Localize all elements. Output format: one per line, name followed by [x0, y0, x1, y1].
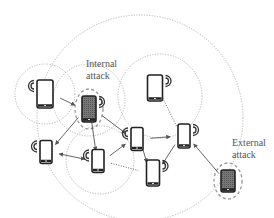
- link-F-H: [143, 149, 147, 162]
- range-circles: [15, 15, 243, 218]
- phone-C: [148, 75, 172, 101]
- phone-A: [29, 80, 53, 108]
- link-E-H: [111, 163, 138, 170]
- link-A-B: [60, 98, 75, 105]
- diagram-canvas: [0, 0, 274, 218]
- phone-icon: [148, 75, 163, 101]
- phone-icon: [147, 160, 160, 186]
- phone-F: [123, 128, 144, 151]
- internal-attack-line2: attack: [86, 70, 117, 82]
- phone-icon: [37, 80, 53, 108]
- link-I-G: [194, 144, 219, 174]
- link-D-E: [59, 154, 84, 159]
- phone-B-internal-attacker: [82, 96, 105, 122]
- link-C-G: [163, 98, 177, 126]
- signal-waves-icon: [84, 150, 90, 161]
- external-attack-label: External attack: [232, 137, 266, 161]
- network-attack-diagram: Internal attack External attack: [0, 0, 274, 218]
- phone-I-external-attacker: [221, 170, 235, 192]
- signal-waves-icon: [166, 76, 172, 87]
- link-B-F: [102, 115, 126, 133]
- signal-waves-icon: [123, 128, 129, 139]
- internal-attack-label: Internal attack: [86, 58, 117, 82]
- signal-waves-icon: [29, 81, 34, 92]
- phone-H: [147, 160, 169, 186]
- nodes: [29, 75, 236, 192]
- phone-D: [32, 141, 52, 164]
- link-B-D: [56, 117, 79, 144]
- signal-waves-icon: [99, 97, 105, 108]
- network-outer-circle: [37, 15, 243, 218]
- internal-attack-line1: Internal: [86, 58, 117, 70]
- external-attack-line2: attack: [232, 149, 266, 161]
- link-E-F: [110, 144, 125, 155]
- signal-waves-icon: [32, 141, 37, 152]
- phone-G: [178, 124, 199, 148]
- external-attack-line1: External: [232, 137, 266, 149]
- phone-E: [84, 150, 105, 173]
- signal-waves-icon: [193, 125, 199, 136]
- phone-icon: [82, 96, 96, 122]
